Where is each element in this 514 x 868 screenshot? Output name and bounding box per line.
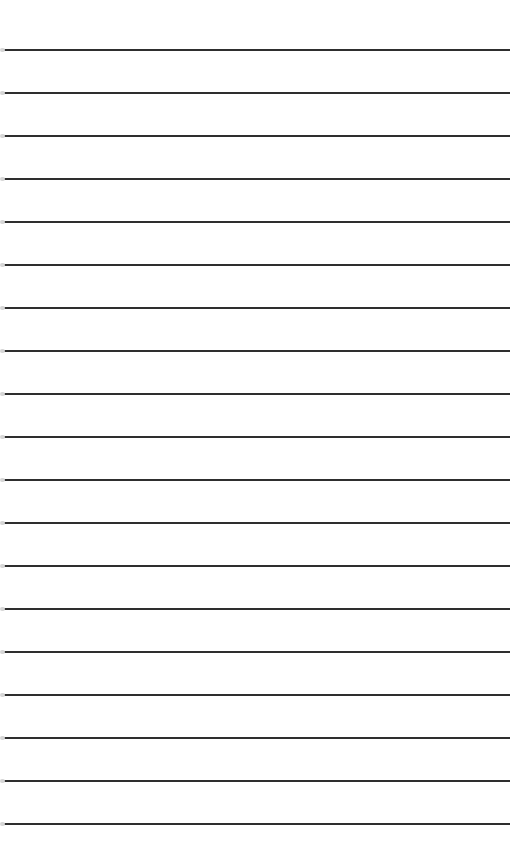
ruled-line bbox=[4, 135, 510, 137]
ruled-line bbox=[4, 651, 510, 653]
ruled-line bbox=[4, 264, 510, 266]
ruled-line bbox=[4, 221, 510, 223]
ruled-line bbox=[4, 780, 510, 782]
ruled-line bbox=[4, 522, 510, 524]
ruled-line bbox=[4, 737, 510, 739]
ruled-line bbox=[4, 49, 510, 51]
ruled-line bbox=[4, 823, 510, 825]
ruled-line bbox=[4, 307, 510, 309]
ruled-line bbox=[4, 393, 510, 395]
lined-paper bbox=[0, 0, 514, 868]
ruled-line bbox=[4, 350, 510, 352]
ruled-line bbox=[4, 608, 510, 610]
ruled-line bbox=[4, 436, 510, 438]
ruled-line bbox=[4, 694, 510, 696]
ruled-line bbox=[4, 479, 510, 481]
ruled-line bbox=[4, 565, 510, 567]
ruled-line bbox=[4, 92, 510, 94]
ruled-line bbox=[4, 178, 510, 180]
